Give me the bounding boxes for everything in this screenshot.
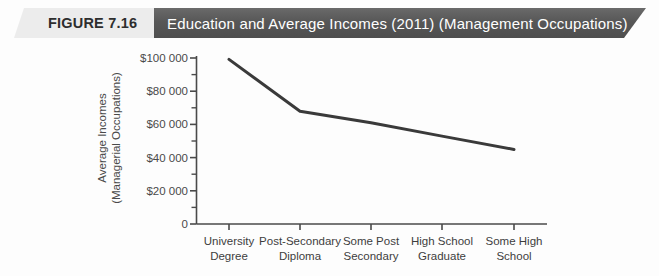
- x-tick-line-1: Some Post: [343, 234, 399, 249]
- figure-title-text: Education and Average Incomes (2011) (Ma…: [167, 15, 628, 32]
- x-tick-line-2: School: [486, 249, 543, 264]
- x-tick-line-2: Graduate: [411, 249, 473, 264]
- figure-number-label: FIGURE 7.16: [48, 15, 137, 31]
- x-tick-line-1: University: [204, 234, 254, 249]
- x-tick-line-1: Some High: [486, 234, 543, 249]
- x-tick-line-2: Diploma: [259, 249, 341, 264]
- figure-title-plate: Education and Average Incomes (2011) (Ma…: [154, 8, 646, 38]
- x-tick-label-post-secondary-diploma: Post-Secondary Diploma: [259, 234, 341, 263]
- figure-banner: FIGURE 7.16 Education and Average Income…: [0, 8, 659, 38]
- figure-number-plate: FIGURE 7.16: [14, 8, 154, 38]
- data-series-line: [229, 59, 514, 149]
- x-tick-line-2: Secondary: [343, 249, 399, 264]
- x-axis-ticks: [229, 224, 514, 230]
- chart-container: Average Incomes (Managerial Occupations)…: [0, 38, 659, 276]
- x-tick-line-2: Degree: [204, 249, 254, 264]
- x-tick-line-1: Post-Secondary: [259, 234, 341, 249]
- x-tick-label-some-high-school: Some High School: [486, 234, 543, 263]
- x-tick-line-1: High School: [411, 234, 473, 249]
- x-tick-label-high-school-graduate: High School Graduate: [411, 234, 473, 263]
- x-tick-label-some-post-secondary: Some Post Secondary: [343, 234, 399, 263]
- x-tick-label-university-degree: University Degree: [204, 234, 254, 263]
